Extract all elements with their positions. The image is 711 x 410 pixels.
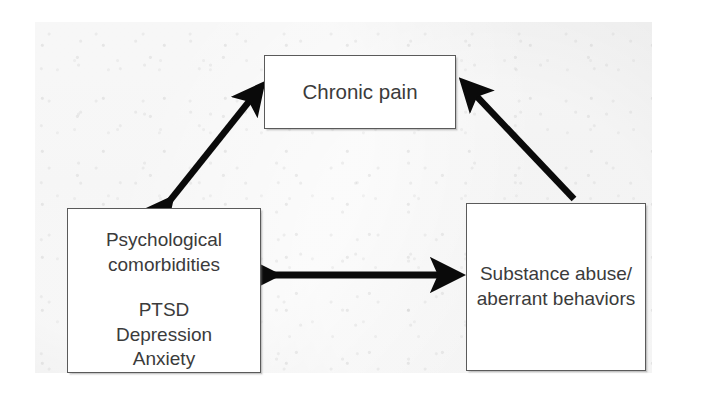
figure-root: Chronic pain Psychological comorbidities…: [0, 0, 711, 410]
node-psychological-title-line-1: Psychological: [106, 228, 222, 253]
node-chronic-pain: Chronic pain: [264, 55, 456, 129]
node-substance-line-1: Substance abuse/: [480, 262, 632, 287]
node-chronic-pain-label: Chronic pain: [302, 79, 417, 106]
node-psychological-title-line-2: comorbidities: [108, 253, 220, 278]
node-substance-abuse: Substance abuse/ aberrant behaviors: [466, 203, 646, 371]
node-psychological-item-depression: Depression: [116, 323, 212, 348]
node-substance-line-2: aberrant behaviors: [477, 287, 635, 312]
node-psychological-item-ptsd: PTSD: [139, 298, 190, 323]
figure-title: Chronic pain, psychological comorbiditie…: [0, 0, 1, 1]
node-psychological-item-anxiety: Anxiety: [133, 347, 195, 372]
node-psychological-comorbidities: Psychological comorbidities PTSD Depress…: [67, 208, 261, 373]
